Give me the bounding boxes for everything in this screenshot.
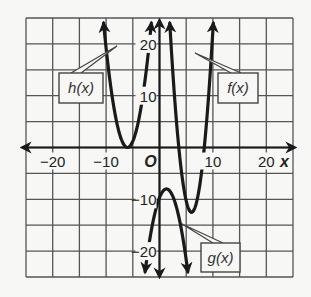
x-tick-label: −10 xyxy=(93,153,118,170)
axes xyxy=(22,20,295,277)
x-tick-label: −20 xyxy=(40,153,65,170)
function-label-f: f(x) xyxy=(227,79,249,96)
function-label-g: g(x) xyxy=(208,249,234,266)
y-tick-label: 10 xyxy=(140,88,157,105)
y-tick-label: −10 xyxy=(131,191,156,208)
y-tick-label: 20 xyxy=(140,36,157,53)
function-label-h: h(x) xyxy=(68,79,94,96)
x-tick-label: 10 xyxy=(205,153,222,170)
x-tick-label: 20 xyxy=(258,153,275,170)
x-axis-label: x xyxy=(279,153,290,170)
graph: −20−101020xO2010−10−20 h(x)f(x)g(x) xyxy=(0,0,311,297)
origin-label: O xyxy=(144,153,157,170)
curve-fx xyxy=(170,23,214,212)
y-tick-label: −20 xyxy=(131,243,156,260)
